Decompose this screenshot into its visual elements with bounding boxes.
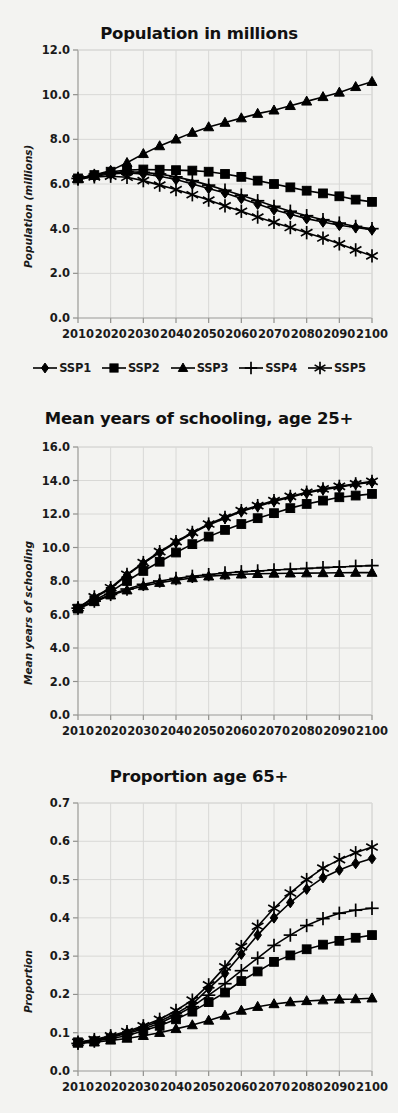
x-axis-tick-label: 2080 [291, 327, 323, 341]
plus-marker-icon [238, 361, 264, 375]
legend-item-label: SSP3 [197, 361, 229, 375]
y-axis-tick-label: 6.0 [50, 177, 70, 191]
chart-panel-proportion: Proportion age 65+ Proportion 0.00.10.20… [0, 755, 398, 1113]
y-axis-tick-label: 0.5 [50, 873, 70, 887]
x-axis-tick-label: 2080 [291, 1080, 323, 1094]
x-axis-tick-label: 2040 [160, 327, 192, 341]
y-axis-tick-label: 8.0 [50, 574, 70, 588]
y-axis-tick-label: 8.0 [50, 132, 70, 146]
legend-row: SSP1SSP2SSP3SSP4SSP5 [0, 355, 398, 395]
legend-item-label: SSP2 [128, 361, 160, 375]
y-axis-tick-label: 16.0 [42, 440, 70, 454]
y-axis-tick-label: 0.6 [50, 834, 70, 848]
x-axis-tick-label: 2040 [160, 1080, 192, 1094]
y-axis-tick-label: 0.2 [50, 987, 70, 1001]
x-axis-tick-label: 2100 [356, 1080, 388, 1094]
legend-item-ssp3[interactable]: SSP3 [170, 361, 229, 375]
triangle-marker-icon [170, 361, 196, 375]
series-ssp3 [73, 76, 377, 182]
x-axis-tick-label: 2020 [95, 724, 127, 738]
x-axis-tick-label: 2090 [323, 327, 355, 341]
x-axis-tick-label: 2080 [291, 724, 323, 738]
y-axis-tick-label: 4.0 [50, 641, 70, 655]
series-ssp3 [73, 993, 377, 1047]
legend-item-label: SSP4 [265, 361, 297, 375]
chart-panel-schooling: Mean years of schooling, age 25+ Mean ye… [0, 395, 398, 755]
x-axis-tick-label: 2020 [95, 1080, 127, 1094]
y-axis-tick-label: 2.0 [50, 266, 70, 280]
y-axis-tick-label: 0.0 [50, 708, 70, 722]
x-axis-tick-label: 2100 [356, 724, 388, 738]
y-axis-tick-label: 14.0 [42, 474, 70, 488]
x-axis-tick-label: 2070 [258, 327, 290, 341]
x-axis-tick-label: 2020 [95, 327, 127, 341]
x-axis-tick-label: 2050 [193, 327, 225, 341]
chart-plot-area: 0.02.04.06.08.010.012.014.016.0201020202… [0, 395, 398, 755]
y-axis-tick-label: 12.0 [42, 43, 70, 57]
x-axis-tick-label: 2060 [225, 724, 257, 738]
y-axis-tick-label: 0.1 [50, 1026, 70, 1040]
x-axis-tick-label: 2030 [127, 1080, 159, 1094]
y-axis-tick-label: 2.0 [50, 675, 70, 689]
x-axis-tick-label: 2010 [62, 1080, 94, 1094]
legend-item-ssp5[interactable]: SSP5 [307, 361, 366, 375]
x-axis-tick-label: 2070 [258, 724, 290, 738]
series-ssp5 [72, 170, 378, 263]
x-axis-tick-label: 2050 [193, 1080, 225, 1094]
legend-item-ssp4[interactable]: SSP4 [238, 361, 297, 375]
y-axis-tick-label: 4.0 [50, 222, 70, 236]
x-axis-tick-label: 2060 [225, 1080, 257, 1094]
figure-root: Population in millions Population (milli… [0, 0, 398, 1113]
chart-plot-area: 0.02.04.06.08.010.012.020102020203020402… [0, 0, 398, 355]
y-axis-tick-label: 0.4 [50, 911, 70, 925]
chart-panel-population: Population in millions Population (milli… [0, 0, 398, 355]
chart-legend: SSP1SSP2SSP3SSP4SSP5 [0, 361, 398, 375]
y-axis-tick-label: 0.3 [50, 949, 70, 963]
y-axis-tick-label: 6.0 [50, 608, 70, 622]
legend-item-label: SSP1 [59, 361, 91, 375]
y-axis-tick-label: 0.0 [50, 1064, 70, 1078]
chart-plot-area: 0.00.10.20.30.40.50.60.72010202020302040… [0, 755, 398, 1113]
legend-item-ssp1[interactable]: SSP1 [32, 361, 91, 375]
x-axis-tick-label: 2030 [127, 327, 159, 341]
x-axis-tick-label: 2100 [356, 327, 388, 341]
y-axis-tick-label: 12.0 [42, 507, 70, 521]
asterisk-marker-icon [307, 361, 333, 375]
legend-item-ssp2[interactable]: SSP2 [101, 361, 160, 375]
square-marker-icon [101, 361, 127, 375]
x-axis-tick-label: 2090 [323, 724, 355, 738]
y-axis-tick-label: 10.0 [42, 88, 70, 102]
x-axis-tick-label: 2010 [62, 724, 94, 738]
x-axis-tick-label: 2070 [258, 1080, 290, 1094]
diamond-marker-icon [32, 361, 58, 375]
x-axis-tick-label: 2010 [62, 327, 94, 341]
y-axis-tick-label: 0.0 [50, 311, 70, 325]
y-axis-tick-label: 10.0 [42, 541, 70, 555]
legend-item-label: SSP5 [334, 361, 366, 375]
x-axis-tick-label: 2060 [225, 327, 257, 341]
y-axis-tick-label: 0.7 [50, 796, 70, 810]
series-ssp2 [74, 490, 377, 613]
x-axis-tick-label: 2090 [323, 1080, 355, 1094]
x-axis-tick-label: 2050 [193, 724, 225, 738]
x-axis-tick-label: 2030 [127, 724, 159, 738]
x-axis-tick-label: 2040 [160, 724, 192, 738]
